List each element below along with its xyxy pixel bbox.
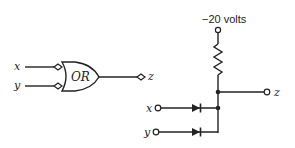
output-diamond-icon — [137, 74, 145, 80]
circuit-input-y-label: y — [143, 126, 151, 139]
supply-terminal-icon — [215, 27, 220, 32]
diode-circuit: −20 volts z x y — [143, 13, 280, 139]
input-y-label: y — [13, 79, 21, 92]
output-z-label: z — [147, 70, 154, 83]
resistor-icon — [214, 44, 222, 75]
diode-x-icon — [192, 104, 201, 113]
input-junction-dot — [216, 106, 221, 111]
circuit-output-z-label: z — [273, 86, 280, 99]
supply-voltage-label: −20 volts — [202, 13, 247, 25]
diode-y-icon — [192, 128, 201, 137]
input-x-diamond-icon — [54, 64, 62, 70]
input-y-diamond-icon — [54, 83, 62, 89]
input-x-label: x — [14, 60, 21, 73]
output-terminal-icon — [264, 89, 270, 95]
input-x-terminal-icon — [155, 105, 161, 111]
logic-symbol: x y OR z — [13, 60, 154, 92]
circuit-input-x-label: x — [146, 102, 153, 115]
gate-label: OR — [71, 70, 90, 84]
or-gate-diagram: x y OR z −20 volts z x y — [0, 0, 295, 148]
input-y-terminal-icon — [153, 129, 159, 135]
